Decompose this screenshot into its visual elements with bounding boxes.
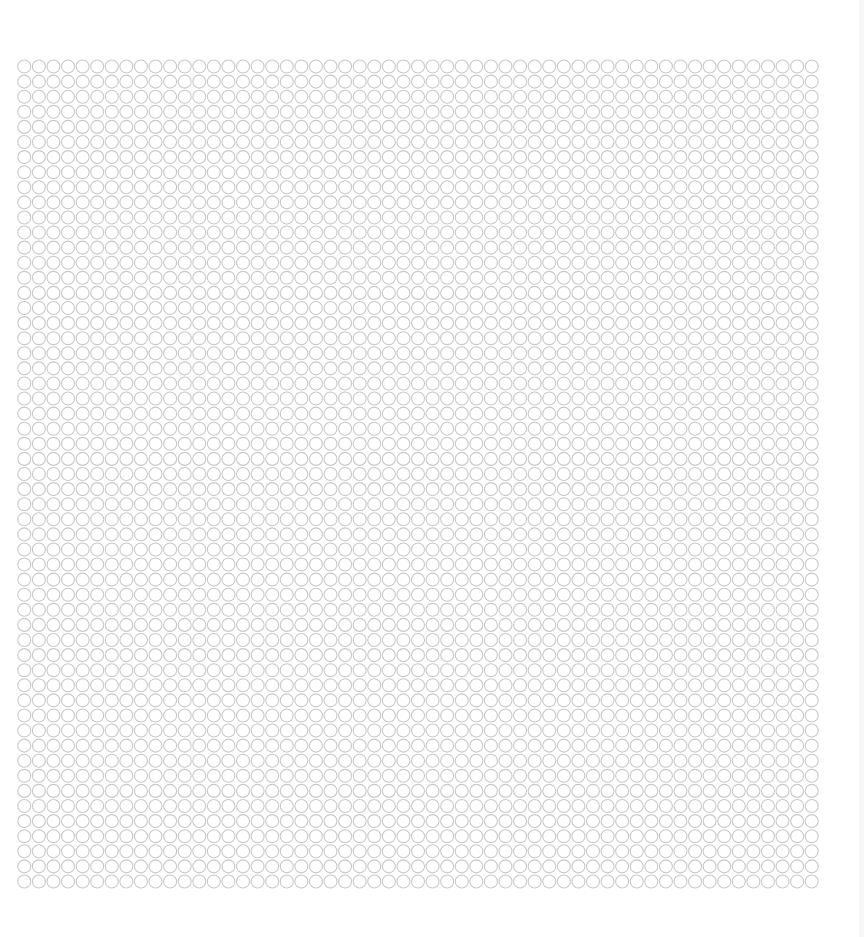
grid-circle bbox=[295, 558, 308, 571]
grid-circle bbox=[659, 543, 672, 556]
grid-circle bbox=[32, 166, 45, 179]
grid-circle bbox=[193, 407, 206, 420]
grid-circle bbox=[237, 241, 250, 254]
grid-circle bbox=[805, 739, 818, 752]
grid-circle bbox=[295, 302, 308, 315]
grid-circle bbox=[630, 528, 643, 541]
grid-circle bbox=[266, 302, 279, 315]
grid-circle bbox=[514, 362, 527, 375]
grid-circle bbox=[134, 392, 147, 405]
grid-circle bbox=[645, 362, 658, 375]
grid-circle bbox=[237, 543, 250, 556]
grid-circle bbox=[761, 105, 774, 118]
grid-circle bbox=[193, 513, 206, 526]
grid-circle bbox=[630, 271, 643, 284]
grid-circle bbox=[251, 256, 264, 269]
grid-circle bbox=[251, 875, 264, 888]
grid-circle bbox=[368, 256, 381, 269]
grid-circle bbox=[412, 845, 425, 858]
grid-circle bbox=[514, 105, 527, 118]
grid-circle bbox=[514, 377, 527, 390]
grid-circle bbox=[309, 588, 322, 601]
grid-circle bbox=[368, 830, 381, 843]
grid-circle bbox=[805, 664, 818, 677]
grid-circle bbox=[309, 437, 322, 450]
grid-circle bbox=[514, 709, 527, 722]
grid-circle bbox=[674, 754, 687, 767]
grid-circle bbox=[266, 60, 279, 73]
grid-circle bbox=[718, 226, 731, 239]
grid-circle bbox=[441, 452, 454, 465]
grid-circle bbox=[572, 528, 585, 541]
grid-circle bbox=[703, 166, 716, 179]
grid-circle bbox=[91, 498, 104, 511]
grid-circle bbox=[149, 317, 162, 330]
grid-circle bbox=[645, 618, 658, 631]
grid-circle bbox=[120, 845, 133, 858]
grid-circle bbox=[62, 377, 75, 390]
grid-circle bbox=[616, 437, 629, 450]
grid-circle bbox=[805, 166, 818, 179]
grid-circle bbox=[149, 754, 162, 767]
grid-circle bbox=[353, 468, 366, 481]
grid-circle bbox=[397, 634, 410, 647]
grid-circle bbox=[572, 271, 585, 284]
grid-circle bbox=[149, 166, 162, 179]
grid-circle bbox=[761, 588, 774, 601]
grid-circle bbox=[470, 60, 483, 73]
grid-circle bbox=[586, 603, 599, 616]
grid-circle bbox=[791, 709, 804, 722]
grid-circle bbox=[586, 800, 599, 813]
grid-circle bbox=[674, 286, 687, 299]
grid-circle bbox=[776, 694, 789, 707]
grid-circle bbox=[222, 769, 235, 782]
grid-circle bbox=[149, 483, 162, 496]
grid-circle bbox=[134, 618, 147, 631]
grid-circle bbox=[718, 784, 731, 797]
grid-circle bbox=[324, 332, 337, 345]
grid-circle bbox=[718, 603, 731, 616]
grid-circle bbox=[62, 709, 75, 722]
grid-circle bbox=[397, 754, 410, 767]
grid-circle bbox=[499, 181, 512, 194]
grid-circle bbox=[397, 860, 410, 873]
grid-circle bbox=[76, 75, 89, 88]
grid-circle bbox=[32, 241, 45, 254]
grid-circle bbox=[776, 860, 789, 873]
grid-circle bbox=[630, 483, 643, 496]
grid-circle bbox=[62, 543, 75, 556]
grid-circle bbox=[76, 498, 89, 511]
grid-circle bbox=[514, 558, 527, 571]
grid-circle bbox=[193, 196, 206, 209]
grid-circle bbox=[18, 679, 31, 692]
grid-circle bbox=[674, 498, 687, 511]
grid-circle bbox=[134, 241, 147, 254]
grid-circle bbox=[339, 136, 352, 149]
grid-circle bbox=[426, 543, 439, 556]
grid-circle bbox=[630, 815, 643, 828]
grid-circle bbox=[630, 618, 643, 631]
grid-circle bbox=[441, 830, 454, 843]
grid-circle bbox=[382, 724, 395, 737]
grid-circle bbox=[222, 875, 235, 888]
grid-circle bbox=[62, 241, 75, 254]
grid-circle bbox=[791, 136, 804, 149]
grid-circle bbox=[193, 302, 206, 315]
grid-circle bbox=[499, 407, 512, 420]
grid-circle bbox=[309, 558, 322, 571]
grid-circle bbox=[791, 498, 804, 511]
grid-circle bbox=[149, 452, 162, 465]
grid-circle bbox=[616, 241, 629, 254]
grid-circle bbox=[412, 800, 425, 813]
grid-circle bbox=[543, 75, 556, 88]
grid-circle bbox=[251, 573, 264, 586]
grid-circle bbox=[193, 618, 206, 631]
grid-circle bbox=[674, 679, 687, 692]
grid-circle bbox=[630, 347, 643, 360]
grid-circle bbox=[105, 875, 118, 888]
grid-circle bbox=[470, 528, 483, 541]
grid-circle bbox=[557, 196, 570, 209]
grid-circle bbox=[747, 679, 760, 692]
grid-circle bbox=[791, 362, 804, 375]
grid-circle bbox=[441, 543, 454, 556]
